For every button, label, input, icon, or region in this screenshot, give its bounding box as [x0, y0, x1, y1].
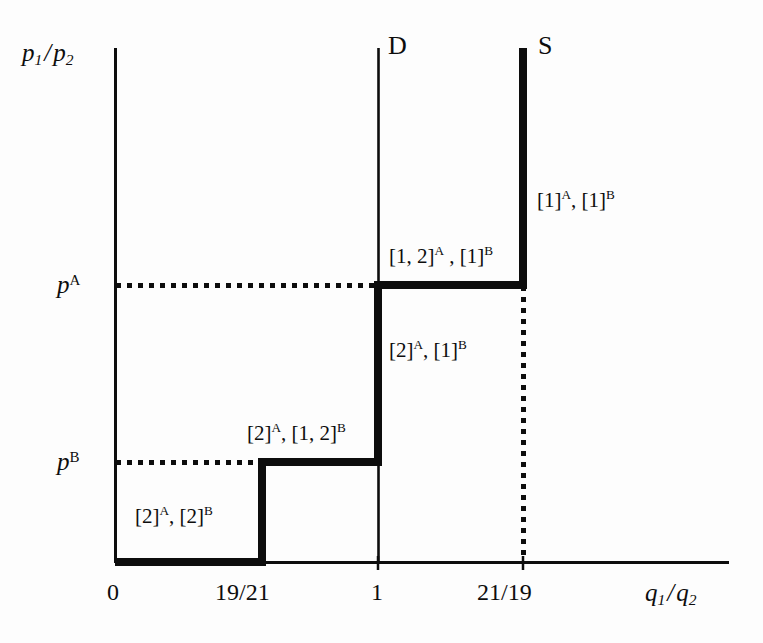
- region-2-sup2: B: [484, 243, 493, 258]
- region-3-sup1: A: [414, 337, 424, 352]
- y-tick-pb-base: p: [57, 448, 70, 475]
- region-3-part1: [2]: [389, 338, 414, 362]
- supply-curve-label: S: [538, 33, 552, 59]
- region-4-part2: [1, 2]: [292, 421, 338, 445]
- region-5-sep: ,: [169, 504, 180, 528]
- x-tick-label-1: 1: [371, 580, 383, 604]
- region-1-part2: [1]: [582, 188, 607, 212]
- region-5-sup1: A: [160, 503, 170, 518]
- y-tick-label-pb: pB: [57, 449, 80, 474]
- region-1-sup1: A: [562, 187, 572, 202]
- demand-curve-label: D: [388, 33, 407, 59]
- y-axis-label-p2: p: [53, 39, 66, 66]
- plot-canvas: [0, 0, 763, 643]
- region-5-part2: [2]: [180, 504, 205, 528]
- step-supply-demand-figure: p1/p2 q1/q2 D S pA pB 0 19/21 1 21/19 [1…: [0, 0, 763, 643]
- region-5-part1: [2]: [135, 504, 160, 528]
- x-axis-label: q1/q2: [645, 580, 696, 608]
- region-5-sup2: B: [204, 503, 213, 518]
- y-axis-label: p1/p2: [22, 40, 73, 68]
- x-tick-label-0: 0: [107, 580, 119, 604]
- y-axis-label-slash: /: [42, 39, 53, 66]
- y-tick-pa-sup: A: [70, 272, 81, 288]
- y-tick-label-pa: pA: [57, 272, 80, 297]
- region-3-sup2: B: [458, 337, 467, 352]
- x-axis-label-q2: q: [676, 579, 689, 606]
- region-2-sup1: A: [435, 243, 445, 258]
- region-label-2a-1b: [2]A, [1]B: [389, 338, 467, 361]
- region-2-part2: [1]: [460, 244, 485, 268]
- supply-step-curve: [115, 48, 523, 562]
- y-tick-pb-sup: B: [70, 449, 80, 465]
- y-tick-pa-base: p: [57, 271, 70, 298]
- x-axis-label-q1: q: [645, 579, 658, 606]
- region-2-part1: [1, 2]: [389, 244, 435, 268]
- x-tick-label-21-19: 21/19: [477, 580, 532, 604]
- region-label-1a-1b: [1]A, [1]B: [537, 188, 615, 211]
- region-4-sep: ,: [281, 421, 292, 445]
- region-1-part1: [1]: [537, 188, 562, 212]
- region-4-sup2: B: [337, 420, 346, 435]
- region-1-sep: ,: [571, 188, 582, 212]
- region-label-12a-1b: [1, 2]A , [1]B: [389, 244, 493, 267]
- region-1-sup2: B: [606, 187, 615, 202]
- region-label-2a-2b: [2]A, [2]B: [135, 504, 213, 527]
- region-3-part2: [1]: [434, 338, 459, 362]
- region-label-2a-12b: [2]A, [1, 2]B: [247, 421, 346, 444]
- y-axis-label-sub2: 2: [66, 51, 74, 68]
- x-tick-label-19-21: 19/21: [215, 580, 270, 604]
- region-4-sup1: A: [272, 420, 282, 435]
- region-4-part1: [2]: [247, 421, 272, 445]
- x-axis-label-slash: /: [665, 579, 676, 606]
- region-2-sep: ,: [444, 244, 460, 268]
- x-axis-label-sub2: 2: [689, 591, 697, 608]
- y-axis-label-p1: p: [22, 39, 35, 66]
- region-3-sep: ,: [423, 338, 434, 362]
